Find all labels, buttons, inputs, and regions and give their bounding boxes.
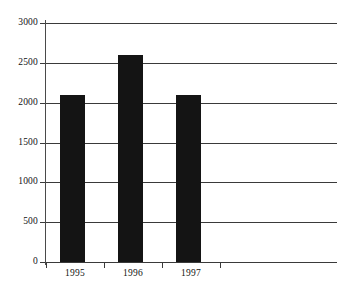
y-tick-mark: [40, 23, 45, 24]
x-tick-mark: [220, 262, 221, 268]
y-tick-label: 2000: [4, 98, 38, 108]
bar: [118, 55, 143, 262]
bars-group: [46, 23, 337, 262]
y-tick-label: 0: [4, 257, 38, 267]
y-tick-label: 500: [4, 217, 38, 227]
y-tick-label: 1000: [4, 177, 38, 187]
bar: [60, 95, 85, 262]
x-category-label: 1997: [162, 268, 220, 279]
x-category-label: 1996: [104, 268, 162, 279]
y-tick-label: 1500: [4, 138, 38, 148]
y-tick-mark: [40, 63, 45, 64]
y-tick-mark: [40, 262, 45, 263]
y-tick-mark: [40, 143, 45, 144]
y-tick-label: 3000: [4, 18, 38, 28]
y-tick-label: 2500: [4, 58, 38, 68]
x-axis-baseline: [46, 262, 337, 263]
y-axis-tick-labels: 050010001500200025003000: [0, 0, 38, 293]
x-category-label: 1995: [46, 268, 104, 279]
y-tick-mark: [40, 182, 45, 183]
y-tick-mark: [40, 222, 45, 223]
bar: [176, 95, 201, 262]
y-tick-mark: [40, 103, 45, 104]
bar-chart: 050010001500200025003000 199519961997: [0, 0, 346, 293]
